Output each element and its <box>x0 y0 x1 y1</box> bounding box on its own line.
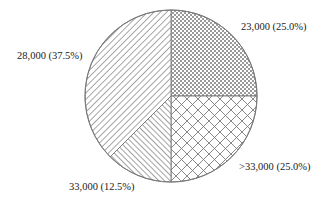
slice-label-28000: 28,000 (37.5%) <box>17 50 83 61</box>
slice-label-33000: 33,000 (12.5%) <box>69 181 135 192</box>
slice-label-over-33000: >33,000 (25.0%) <box>239 161 311 172</box>
pie-slices <box>85 10 257 182</box>
slice-label-23000: 23,000 (25.0%) <box>241 21 307 32</box>
